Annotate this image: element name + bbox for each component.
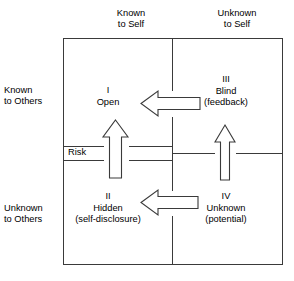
quadrant-open-name: Open <box>75 97 141 109</box>
quadrant-blind-paren: (feedback) <box>190 97 262 109</box>
quadrant-hidden-paren: (self-disclosure) <box>66 214 150 226</box>
quadrant-open-roman: I <box>75 85 141 97</box>
feedback-arrow-right <box>215 125 235 180</box>
row-header-known-to-others-line1: Known <box>4 85 62 96</box>
diagram-canvas <box>0 0 294 281</box>
quadrant-unknown-name: Unknown <box>188 203 264 215</box>
column-header-known-to-self-line2: to Self <box>96 19 166 30</box>
quadrant-blind-roman: III <box>190 74 262 86</box>
quadrant-open: I Open <box>75 85 141 108</box>
row-header-known-to-others-line2: to Others <box>4 96 62 107</box>
column-header-unknown-to-self-line2: to Self <box>197 19 277 30</box>
row-header-unknown-to-others-line1: Unknown <box>4 203 62 214</box>
quadrant-unknown: IV Unknown (potential) <box>188 191 264 226</box>
quadrant-hidden-name: Hidden <box>66 203 150 215</box>
quadrant-hidden: II Hidden (self-disclosure) <box>66 191 150 226</box>
column-header-known-to-self-line1: Known <box>96 8 166 19</box>
johari-window-diagram: Known to Self Unknown to Self Known to O… <box>0 0 294 281</box>
row-header-unknown-to-others-line2: to Others <box>4 214 62 225</box>
risk-band-label: Risk <box>68 147 102 158</box>
row-header-unknown-to-others: Unknown to Others <box>4 203 62 226</box>
quadrant-unknown-paren: (potential) <box>188 214 264 226</box>
risk-arrow-left <box>103 120 128 178</box>
quadrant-unknown-roman: IV <box>188 191 264 203</box>
column-header-known-to-self: Known to Self <box>96 8 166 31</box>
row-header-known-to-others: Known to Others <box>4 85 62 108</box>
quadrant-blind-name: Blind <box>190 86 262 98</box>
column-header-unknown-to-self: Unknown to Self <box>197 8 277 31</box>
quadrant-blind: III Blind (feedback) <box>190 74 262 109</box>
column-header-unknown-to-self-line1: Unknown <box>197 8 277 19</box>
quadrant-hidden-roman: II <box>66 191 150 203</box>
